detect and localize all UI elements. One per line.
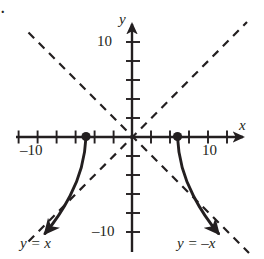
x-axis-label: x [239, 118, 246, 133]
x-tick-label-10: 10 [202, 143, 217, 158]
y-tick-label-negative-10: –10 [92, 224, 115, 239]
left-vertex-point [81, 132, 90, 141]
y-tick-label-10: 10 [97, 34, 112, 49]
x-tick-label-negative-10: –10 [20, 143, 43, 158]
asymptote-left-label: y = x [20, 236, 51, 251]
hyperbola-figure: . y x 10 –10 –10 10 y = x y = –x [0, 0, 264, 259]
y-axis-label: y [119, 12, 126, 27]
asymptote-right-label: y = –x [177, 236, 215, 251]
figure-number: . [1, 2, 5, 16]
graph-canvas [0, 0, 264, 259]
right-vertex-point [173, 132, 182, 141]
